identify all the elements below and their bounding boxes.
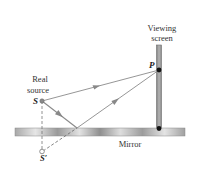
viewing-screen [157,45,162,129]
point-p-dot [157,68,162,73]
direct-ray-arrow-icon [93,85,101,89]
screen-mirror-junction-dot [157,126,162,131]
lloyds-mirror-diagram: Viewing screen P Real source S S′ Mirror [0,0,199,174]
reflected-ray-arrow-icon [111,98,119,105]
source-s-dot [40,99,44,103]
real-source-label-line1: Real [32,74,48,84]
image-source-s-prime-label: S′ [40,153,47,163]
source-s-label: S [33,96,38,106]
mirror-label: Mirror [119,139,142,149]
real-source-label-line2: source [27,85,49,95]
direct-ray [42,70,159,101]
point-p-label: P [149,60,155,70]
incident-ray-arrow-icon [55,110,63,117]
viewing-screen-label-line1: Viewing [148,23,178,33]
viewing-screen-label-line2: screen [151,33,173,43]
